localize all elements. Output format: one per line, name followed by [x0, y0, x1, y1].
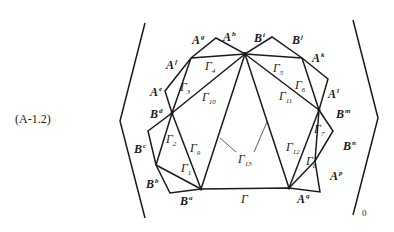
equation-label: (A-1.2) — [15, 112, 51, 126]
point-label-Aq: Aq — [296, 192, 310, 206]
gamma13-leader-left — [220, 138, 236, 152]
point-label-Ah: Ah — [222, 30, 236, 44]
gamma13-leader-right — [254, 122, 267, 152]
point-label-Bb: Bb — [145, 177, 159, 191]
region-label-gamma-outer: Γ — [240, 192, 249, 206]
point-label-Ae: Ae — [149, 85, 162, 99]
region-label-gamma9: Γ9 — [189, 141, 201, 157]
gamma-labels: Γ1Γ2Γ3Γ4Γ5Γ6Γ7Γ8Γ9Γ10Γ11Γ12Γ13Γ — [165, 59, 325, 206]
region-label-gamma13: Γ13 — [237, 152, 252, 168]
region-label-gamma3: Γ3 — [179, 80, 191, 96]
region-label-gamma5: Γ5 — [272, 61, 284, 77]
point-label-Bj: Bj — [291, 33, 303, 47]
point-label-Bm: Bm — [335, 107, 351, 121]
region-label-gamma2: Γ2 — [165, 132, 177, 148]
region-label-gamma11: Γ11 — [278, 89, 292, 105]
point-label-Al: Al — [327, 87, 339, 101]
region-label-gamma6: Γ6 — [294, 78, 306, 94]
point-label-Bd: Bd — [149, 107, 163, 121]
point-label-Ba: Ba — [179, 194, 193, 208]
point-label-Ap: Ap — [329, 169, 343, 183]
point-label-Ak: Ak — [311, 51, 325, 65]
bracket-subscript: 0 — [362, 208, 367, 218]
point-label-Ag: Ag — [191, 33, 205, 47]
right-angle-bracket — [353, 20, 378, 215]
point-label-Bc: Bc — [133, 142, 146, 156]
region-label-gamma12: Γ12 — [285, 140, 300, 156]
region-label-gamma10: Γ10 — [201, 90, 216, 106]
region-label-gamma7: Γ7 — [313, 122, 325, 138]
point-label-Af: Af — [165, 58, 178, 72]
point-label-Bn: Bn — [342, 139, 356, 153]
left-angle-bracket — [120, 23, 145, 218]
region-label-gamma4: Γ4 — [204, 59, 216, 75]
diagram-canvas: (A-1.2) 0 AgAhBiBjAfAkAeAlBdBmBcBnBbApBa… — [0, 0, 394, 232]
region-label-gamma1: Γ1 — [180, 161, 191, 177]
